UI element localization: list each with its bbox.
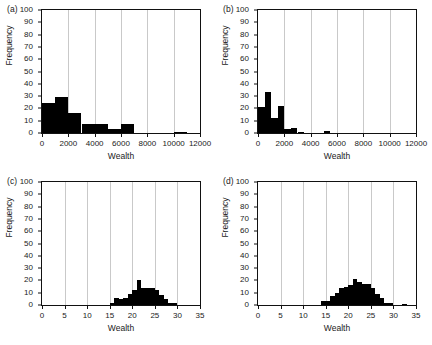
y-tick-label-90: 90 — [240, 190, 249, 198]
y-tick-label-40: 40 — [24, 252, 33, 260]
panel-b-x-axis-title: Wealth — [257, 152, 417, 161]
y-tick-label-10: 10 — [240, 117, 249, 125]
y-tick-label-50: 50 — [240, 68, 249, 76]
y-tick-label-90: 90 — [24, 190, 33, 198]
x-tick-label-10: 10 — [83, 311, 92, 320]
panel-c-y-axis: Frequency 0102030405060708090100 — [0, 181, 41, 306]
histogram-bar — [389, 303, 394, 305]
x-tick-mark-0 — [258, 306, 259, 309]
x-tick-label-10000: 10000 — [163, 139, 185, 148]
x-tick-mark-20 — [348, 306, 349, 309]
y-tick-label-70: 70 — [24, 215, 33, 223]
y-tick-label-20: 20 — [240, 276, 249, 284]
x-tick-label-30: 30 — [173, 311, 182, 320]
x-tick-mark-10000 — [390, 134, 391, 137]
y-tick-label-30: 30 — [240, 92, 249, 100]
histogram-bar — [298, 132, 305, 133]
y-tick-label-60: 60 — [240, 55, 249, 63]
panel-a-y-axis: Frequency 0102030405060708090100 — [0, 9, 41, 134]
histogram-figure: (a) Frequency 0102030405060708090100 Wea… — [0, 0, 432, 345]
y-tick-label-70: 70 — [24, 43, 33, 51]
panel-d-y-axis: Frequency 0102030405060708090100 — [216, 181, 257, 306]
y-tick-label-20: 20 — [24, 276, 33, 284]
panel-c-x-axis-title: Wealth — [41, 324, 201, 333]
x-tick-label-0: 0 — [40, 311, 44, 320]
x-tick-mark-25 — [155, 306, 156, 309]
y-tick-label-0: 0 — [29, 301, 33, 309]
x-tick-mark-25 — [371, 306, 372, 309]
panel-b: (b) Frequency 0102030405060708090100 Wea… — [216, 0, 432, 172]
x-tick-mark-15 — [326, 306, 327, 309]
histogram-bar — [42, 103, 55, 133]
y-tick-label-80: 80 — [24, 203, 33, 211]
histogram-bar — [284, 129, 291, 133]
histogram-bar — [95, 124, 108, 133]
panel-a-x-axis-title: Wealth — [41, 152, 201, 161]
y-tick-label-20: 20 — [240, 104, 249, 112]
panel-a-bars — [42, 10, 200, 133]
histogram-bar — [121, 124, 134, 133]
y-tick-label-60: 60 — [24, 227, 33, 235]
x-tick-mark-12000 — [416, 134, 417, 137]
histogram-bar — [82, 124, 95, 133]
histogram-bar — [108, 129, 121, 133]
panel-a-plot-area — [41, 9, 201, 134]
x-tick-label-8000: 8000 — [138, 139, 156, 148]
y-tick-label-40: 40 — [24, 80, 33, 88]
histogram-bar — [402, 304, 407, 305]
y-tick-label-30: 30 — [24, 92, 33, 100]
panel-d-y-axis-title: Frequency — [221, 178, 230, 258]
x-tick-label-0: 0 — [40, 139, 44, 148]
histogram-bar — [324, 131, 331, 133]
x-tick-label-10: 10 — [299, 311, 308, 320]
x-tick-mark-5 — [281, 306, 282, 309]
x-tick-label-6000: 6000 — [328, 139, 346, 148]
x-tick-mark-10 — [87, 306, 88, 309]
histogram-bar — [278, 106, 285, 133]
panel-b-y-axis: Frequency 0102030405060708090100 — [216, 9, 257, 134]
panel-a-x-axis: Wealth 020004000600080001000012000 — [41, 134, 201, 172]
y-tick-label-50: 50 — [24, 240, 33, 248]
x-tick-mark-0 — [42, 134, 43, 137]
y-tick-label-100: 100 — [236, 178, 249, 186]
x-tick-mark-30 — [177, 306, 178, 309]
histogram-bar — [173, 303, 178, 305]
y-tick-label-80: 80 — [24, 31, 33, 39]
panel-b-bars — [258, 10, 416, 133]
panel-d-plot-area — [257, 181, 417, 306]
x-tick-mark-12000 — [200, 134, 201, 137]
y-tick-label-10: 10 — [24, 289, 33, 297]
panel-d-x-axis: Wealth 05101520253035 — [257, 306, 417, 344]
x-tick-label-30: 30 — [389, 311, 398, 320]
y-tick-label-40: 40 — [240, 80, 249, 88]
y-tick-label-70: 70 — [240, 43, 249, 51]
y-tick-label-40: 40 — [240, 252, 249, 260]
x-tick-mark-2000 — [284, 134, 285, 137]
y-tick-label-10: 10 — [240, 289, 249, 297]
x-tick-mark-8000 — [147, 134, 148, 137]
x-tick-mark-6000 — [337, 134, 338, 137]
x-tick-label-6000: 6000 — [112, 139, 130, 148]
y-tick-label-30: 30 — [240, 264, 249, 272]
histogram-bar — [265, 92, 272, 133]
y-tick-label-0: 0 — [29, 129, 33, 137]
x-tick-label-0: 0 — [256, 139, 260, 148]
x-tick-label-8000: 8000 — [354, 139, 372, 148]
x-tick-label-4000: 4000 — [302, 139, 320, 148]
x-tick-label-12000: 12000 — [405, 139, 427, 148]
y-tick-label-60: 60 — [240, 227, 249, 235]
x-tick-label-0: 0 — [256, 311, 260, 320]
y-tick-label-100: 100 — [20, 6, 33, 14]
x-tick-label-4000: 4000 — [86, 139, 104, 148]
x-tick-mark-8000 — [363, 134, 364, 137]
x-tick-label-25: 25 — [150, 311, 159, 320]
x-tick-label-20: 20 — [128, 311, 137, 320]
x-tick-mark-30 — [393, 306, 394, 309]
panel-d-x-axis-title: Wealth — [257, 324, 417, 333]
x-tick-label-35: 35 — [412, 311, 421, 320]
y-tick-label-20: 20 — [24, 104, 33, 112]
x-tick-mark-20 — [132, 306, 133, 309]
panel-b-x-axis: Wealth 020004000600080001000012000 — [257, 134, 417, 172]
y-tick-label-100: 100 — [20, 178, 33, 186]
panel-d: (d) Frequency 0102030405060708090100 Wea… — [216, 172, 432, 344]
